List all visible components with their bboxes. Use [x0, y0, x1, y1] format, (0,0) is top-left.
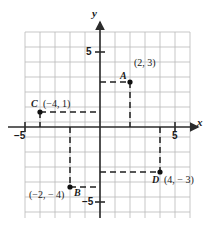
- point-D-label: D: [152, 175, 159, 185]
- point-A-marker: [127, 79, 132, 84]
- point-D-coordinates: (4, − 3): [164, 175, 194, 185]
- point-C-label: C: [31, 99, 38, 109]
- x-tick-label-neg5: −5: [14, 131, 25, 141]
- point-B-label: B: [74, 188, 81, 198]
- point-A-coordinates: (2, 3): [134, 58, 156, 68]
- point-C-marker: [37, 109, 42, 114]
- y-axis-label: y: [92, 8, 97, 19]
- x-tick-label-5: 5: [172, 131, 178, 141]
- y-tick-label-5: 5: [86, 47, 92, 57]
- coordinate-plane-figure: x y −5 5 5 −5 A (2, 3) C (−4, 1) B (−2, …: [0, 0, 214, 228]
- x-axis-label: x: [197, 117, 203, 128]
- point-A-label: A: [120, 71, 127, 81]
- point-B-coordinates: (−2, − 4): [29, 190, 64, 200]
- y-tick-label-neg5: −5: [82, 197, 93, 207]
- point-C-coordinates: (−4, 1): [43, 99, 70, 109]
- point-B-marker: [67, 184, 72, 189]
